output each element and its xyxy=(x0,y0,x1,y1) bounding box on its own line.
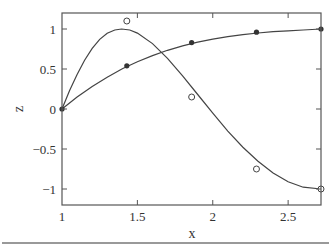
x-tick-label: 2 xyxy=(210,209,217,224)
x-tick-label: 1 xyxy=(59,209,66,224)
markers xyxy=(59,18,324,192)
open-marker xyxy=(189,94,195,100)
series-line xyxy=(62,29,321,189)
curves xyxy=(62,29,321,189)
x-tick-label: 1.5 xyxy=(129,209,145,224)
chart: 11.522.510.50−0.5−1 x z xyxy=(0,0,331,245)
filled-marker xyxy=(189,40,194,45)
open-marker xyxy=(253,166,259,172)
y-tick-label: 0.5 xyxy=(40,62,56,77)
open-marker xyxy=(124,18,130,24)
y-tick-label: −1 xyxy=(42,182,56,197)
x-tick-label: 2.5 xyxy=(280,209,296,224)
y-tick-label: 1 xyxy=(50,22,57,37)
y-tick-label: −0.5 xyxy=(32,142,56,157)
y-tick-label: 0 xyxy=(50,102,57,117)
x-axis-label: x xyxy=(189,226,196,241)
y-axis-label: z xyxy=(11,106,26,112)
filled-marker xyxy=(124,63,129,68)
filled-marker xyxy=(254,30,259,35)
